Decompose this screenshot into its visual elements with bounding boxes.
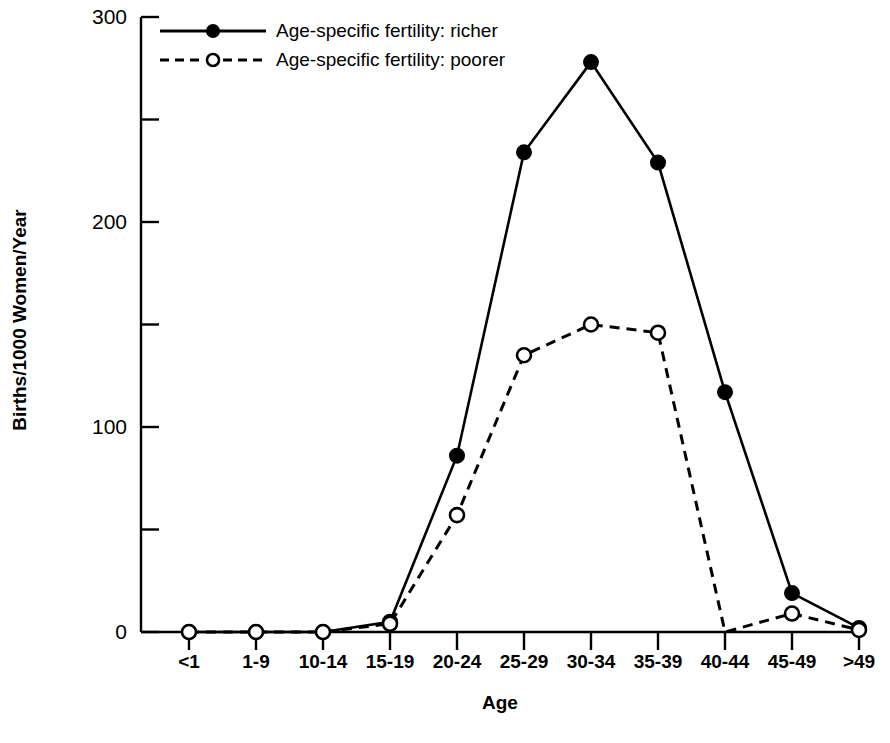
x-tick-label-45-49: 45-49 xyxy=(768,651,817,673)
x-tick-label-35-39: 35-39 xyxy=(634,651,683,673)
data-point xyxy=(249,625,263,639)
data-point xyxy=(584,55,598,69)
data-point xyxy=(517,145,531,159)
x-axis-ticks xyxy=(189,632,859,650)
x-tick-label-40-44: 40-44 xyxy=(701,651,750,673)
x-tick-label-25-29: 25-29 xyxy=(500,651,549,673)
data-series-layer xyxy=(182,55,866,639)
legend-item-richer: Age-specific fertility: richer xyxy=(158,18,498,44)
x-tick-label-20-24: 20-24 xyxy=(433,651,482,673)
data-point xyxy=(450,508,464,522)
legend-sample-dashed-open-circle xyxy=(158,49,268,71)
data-point xyxy=(852,623,866,637)
x-tick-label-1-9: 1-9 xyxy=(242,651,269,673)
x-tick-label-lt1: <1 xyxy=(178,651,200,673)
x-tick-label-30-34: 30-34 xyxy=(567,651,616,673)
axis-spines xyxy=(141,17,862,632)
data-point xyxy=(718,385,732,399)
data-point xyxy=(651,156,665,170)
plot-area xyxy=(0,0,890,743)
legend-label-poorer: Age-specific fertility: poorer xyxy=(268,49,505,71)
x-axis-tick-labels: <1 1-9 10-14 15-19 20-24 25-29 30-34 35-… xyxy=(0,651,890,681)
series-line xyxy=(189,325,859,633)
x-axis-title: Age xyxy=(140,692,860,714)
series-poorer xyxy=(182,318,866,640)
data-point xyxy=(651,326,665,340)
chart-figure: Births/1000 Women/Year 300 200 100 0 xyxy=(0,0,890,743)
x-tick-label-gt49: >49 xyxy=(843,651,875,673)
legend-sample-solid-filled-circle xyxy=(158,20,268,42)
data-point xyxy=(584,318,598,332)
data-point xyxy=(517,348,531,362)
data-point xyxy=(383,617,397,631)
data-point xyxy=(785,586,799,600)
data-point xyxy=(316,625,330,639)
x-tick-label-10-14: 10-14 xyxy=(299,651,348,673)
x-tick-label-15-19: 15-19 xyxy=(366,651,415,673)
legend-label-richer: Age-specific fertility: richer xyxy=(268,20,498,42)
data-point xyxy=(182,625,196,639)
data-point xyxy=(450,449,464,463)
y-axis-minor-ticks xyxy=(141,120,159,530)
legend-item-poorer: Age-specific fertility: poorer xyxy=(158,47,505,73)
chart-legend: Age-specific fertility: richer Age-speci… xyxy=(158,18,578,76)
data-point xyxy=(785,607,799,621)
